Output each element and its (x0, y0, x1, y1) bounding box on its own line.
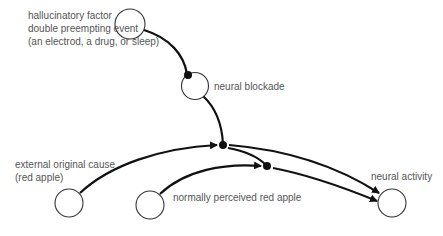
node-neural-activity (378, 189, 406, 217)
junction2-dot (263, 162, 271, 170)
label-line: external original cause (15, 158, 115, 171)
label-line: double preempting event (28, 22, 159, 35)
label-neural-activity: neural activity (371, 170, 432, 183)
label-line: (red apple) (15, 171, 115, 184)
edge-junction1-to-activity (229, 145, 379, 193)
blockade-dot (184, 71, 192, 79)
label-neural-blockade: neural blockade (214, 80, 285, 93)
edge-blockade-to-junction1 (203, 96, 223, 144)
edge-perceived-to-junction2 (160, 165, 261, 194)
label-external-cause: external original cause (red apple) (15, 158, 115, 184)
causal-diagram: hallucinatory factor double preempting e… (0, 0, 443, 236)
junction1-dot (219, 141, 227, 149)
label-line: hallucinatory factor (28, 9, 159, 22)
label-perceived-apple: normally perceived red apple (173, 191, 301, 204)
node-external-cause (55, 189, 83, 217)
node-perceived-apple (136, 191, 164, 219)
label-line: (an electrod, a drug, or sleep) (28, 35, 159, 48)
label-hallucinatory-factor: hallucinatory factor double preempting e… (28, 9, 159, 48)
edge-junction1-to-junction2 (228, 148, 266, 165)
